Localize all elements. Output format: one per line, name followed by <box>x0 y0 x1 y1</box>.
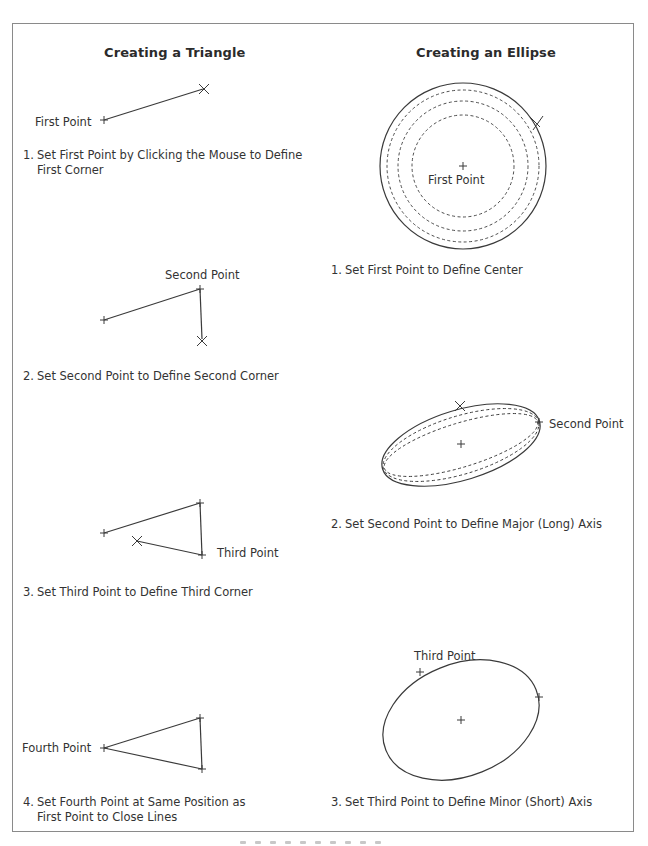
step-number: 4. <box>23 795 37 810</box>
step-number: 3. <box>331 795 345 810</box>
step-text: Set Third Point to Define Minor (Short) … <box>345 795 592 809</box>
ellipse-section-title: Creating an Ellipse <box>416 45 556 60</box>
ellipse-step2-second-point-label: Second Point <box>549 417 624 431</box>
step-number: 1. <box>23 148 37 163</box>
step-text: Set Second Point to Define Major (Long) … <box>345 517 602 531</box>
step-text: Set Third Point to Define Third Corner <box>37 585 253 599</box>
triangle-section-title: Creating a Triangle <box>104 45 245 60</box>
triangle-step3-third-point-label: Third Point <box>217 546 279 560</box>
triangle-step2-instruction: 2.Set Second Point to Define Second Corn… <box>23 369 323 384</box>
step-text: Set First Point by Clicking the Mouse to… <box>37 148 302 162</box>
ellipse-step1-instruction: 1.Set First Point to Define Center <box>331 263 631 278</box>
ellipse-step3-third-point-label: Third Point <box>414 649 476 663</box>
ellipse-step2-instruction: 2.Set Second Point to Define Major (Long… <box>331 517 636 532</box>
step-number: 2. <box>331 517 345 532</box>
triangle-step1-instruction: 1.Set First Point by Clicking the Mouse … <box>23 148 323 178</box>
cropped-caption <box>240 841 410 846</box>
step-text: Set Second Point to Define Second Corner <box>37 369 279 383</box>
triangle-step3-instruction: 3.Set Third Point to Define Third Corner <box>23 585 323 600</box>
step-number: 2. <box>23 369 37 384</box>
step-text-continued: First Corner <box>23 163 323 178</box>
triangle-step4-fourth-point-label: Fourth Point <box>22 741 91 755</box>
step-number: 3. <box>23 585 37 600</box>
triangle-step1-first-point-label: First Point <box>35 115 91 129</box>
step-text: Set Fourth Point at Same Position as <box>37 795 245 809</box>
step-text: Set First Point to Define Center <box>345 263 523 277</box>
ellipse-step1-first-point-label: First Point <box>428 173 484 187</box>
ellipse-step3-instruction: 3.Set Third Point to Define Minor (Short… <box>331 795 636 810</box>
diagram-frame <box>12 23 634 832</box>
step-text-continued: First Point to Close Lines <box>23 810 323 825</box>
triangle-step4-instruction: 4.Set Fourth Point at Same Position as F… <box>23 795 323 825</box>
step-number: 1. <box>331 263 345 278</box>
triangle-step2-second-point-label: Second Point <box>165 268 240 282</box>
